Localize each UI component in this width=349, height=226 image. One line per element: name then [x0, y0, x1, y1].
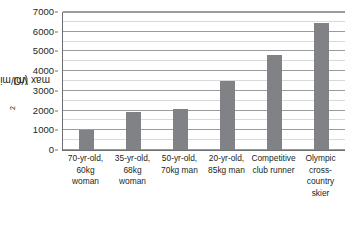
x-axis-label-line: 60kg: [63, 165, 108, 177]
y-axis-tick-label: 2000: [33, 106, 54, 116]
x-axis-label-line: 85kg man: [204, 165, 249, 177]
x-axis-label-line: 68kg: [110, 165, 155, 177]
y-axis-tick-mark: [55, 110, 58, 111]
bar: [314, 23, 329, 150]
x-axis-category-label: Olympiccross-countryskier: [297, 153, 344, 199]
y-axis-tick-mark: [55, 31, 58, 32]
x-axis-label-line: woman: [110, 176, 155, 188]
y-axis-tick-mark: [55, 150, 58, 151]
bar-slot: [298, 12, 345, 150]
bar: [267, 55, 282, 150]
x-axis-category-label: Competitiveclub runner: [250, 153, 297, 199]
y-axis-tick-mark: [55, 51, 58, 52]
x-axis-label-line: 35-yr-old,: [110, 153, 155, 165]
bar: [173, 109, 188, 150]
bar: [79, 130, 94, 150]
x-axis-label-line: cross-: [298, 165, 343, 177]
x-axis-label-line: 20-yr-old,: [204, 153, 249, 165]
x-axis-category-labels: 70-yr-old,60kgwoman35-yr-old,68kgwoman50…: [62, 153, 344, 199]
bar: [126, 112, 141, 150]
bar: [220, 81, 235, 150]
x-axis-category-label: 20-yr-old,85kg man: [203, 153, 250, 199]
x-axis-label-line: Competitive: [251, 153, 296, 165]
bar-slot: [110, 12, 157, 150]
x-axis-label-line: country: [298, 176, 343, 188]
x-axis-category-label: 35-yr-old,68kgwoman: [109, 153, 156, 199]
x-axis-category-label: 70-yr-old,60kgwoman: [62, 153, 109, 199]
y-axis-tick-label: 3000: [33, 86, 54, 96]
y-axis-tick-labels: 01000200030004000500060007000: [18, 12, 58, 150]
bar-series: [63, 12, 345, 150]
y-axis-tick-label: 5000: [33, 47, 54, 57]
plot-area: [62, 12, 345, 151]
y-axis-tick-mark: [55, 12, 58, 13]
y-axis-tick-mark: [55, 71, 58, 72]
x-axis-label-line: 70kg man: [157, 165, 202, 177]
y-axis-tick-label: 6000: [33, 27, 54, 37]
x-axis-label-line: club runner: [251, 165, 296, 177]
y-axis-tick-mark: [55, 130, 58, 131]
y-axis-tick-mark: [55, 90, 58, 91]
y-axis-tick-label: 1000: [33, 126, 54, 136]
x-axis-label-line: 70-yr-old,: [63, 153, 108, 165]
y-axis-tick-label: 7000: [33, 7, 54, 17]
bar-slot: [157, 12, 204, 150]
vo2max-bar-chart: VO2max (ml/min) 010002000300040005000600…: [0, 0, 349, 226]
y-axis-title: VO2max (ml/min): [0, 0, 18, 160]
y-axis-title-subscript: 2: [9, 105, 16, 109]
bar-slot: [63, 12, 110, 150]
bar-slot: [251, 12, 298, 150]
y-axis-tick-label: 0: [49, 145, 54, 155]
x-axis-label-line: woman: [63, 176, 108, 188]
y-axis-tick-label: 4000: [33, 66, 54, 76]
bar-slot: [204, 12, 251, 150]
x-axis-label-line: Olympic: [298, 153, 343, 165]
x-axis-label-line: skier: [298, 188, 343, 200]
x-axis-category-label: 50-yr-old,70kg man: [156, 153, 203, 199]
x-axis-label-line: 50-yr-old,: [157, 153, 202, 165]
